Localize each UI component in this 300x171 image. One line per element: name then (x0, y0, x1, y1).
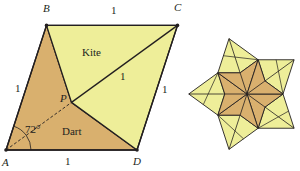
penrose-star (189, 39, 294, 150)
vertex-dot-a (4, 148, 8, 152)
side-length-left: 1 (15, 83, 21, 94)
vertex-label-p: P (60, 93, 67, 104)
kite-label: Kite (82, 47, 101, 58)
dart-label: Dart (62, 126, 82, 137)
diagonal-length: 1 (120, 71, 126, 82)
angle-label: 72° (25, 124, 40, 135)
vertex-label-c: C (174, 2, 181, 13)
vertex-label-a: A (2, 157, 9, 168)
vertex-label-d: D (133, 156, 141, 167)
side-length-bottom: 1 (65, 156, 71, 167)
vertex-dot-d (135, 148, 139, 152)
vertex-dot-b (45, 24, 49, 28)
kite-dart-diagram (0, 0, 300, 171)
side-length-right: 1 (162, 84, 168, 95)
vertex-dot-c (176, 24, 180, 28)
vertex-label-b: B (43, 3, 50, 14)
side-length-top: 1 (111, 5, 117, 16)
